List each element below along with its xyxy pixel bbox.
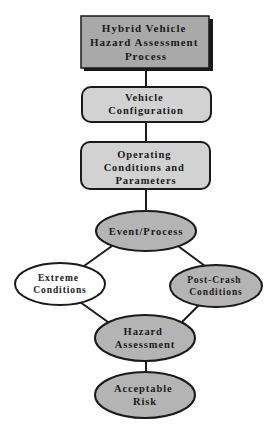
edge-event-to-postcrash <box>178 246 205 266</box>
edge-event-to-extreme <box>84 246 112 266</box>
extreme-conditions-line-2: Conditions <box>33 285 86 295</box>
post-crash-conditions-ellipse <box>170 265 262 307</box>
vehicle-configuration-line-1: Vehicle <box>125 92 164 103</box>
acceptable-risk-line-2: Risk <box>133 396 157 407</box>
post-crash-conditions-line-1: Post-Crash <box>187 275 241 285</box>
vehicle-configuration-line-2: Configuration <box>108 105 183 116</box>
edge-extreme-to-hazard <box>80 302 108 322</box>
hazard-assessment-node: Hazard Assessment <box>95 315 195 361</box>
hazard-assessment-line-1: Hazard <box>124 326 163 337</box>
operating-conditions-line-2: Conditions and <box>104 162 185 173</box>
hazard-assessment-flow-diagram: Hybrid Vehicle Hazard Assessment Process… <box>0 0 275 426</box>
operating-conditions-box: Operating Conditions and Parameters <box>81 142 210 189</box>
operating-conditions-line-3: Parameters <box>116 175 177 186</box>
post-crash-conditions-node: Post-Crash Conditions <box>170 265 262 307</box>
svg-text:Event/Process: Event/Process <box>109 226 184 237</box>
hazard-assessment-line-2: Assessment <box>115 339 175 350</box>
title-line-2: Hazard Assessment <box>90 36 198 48</box>
extreme-conditions-node: Extreme Conditions <box>15 263 105 305</box>
acceptable-risk-node: Acceptable Risk <box>95 372 195 418</box>
event-process-label: Event/Process <box>109 226 184 237</box>
operating-conditions-line-1: Operating <box>117 149 171 160</box>
title-box: Hybrid Vehicle Hazard Assessment Process <box>81 16 213 71</box>
title-line-3: Process <box>125 50 167 62</box>
post-crash-conditions-line-2: Conditions <box>189 287 242 297</box>
acceptable-risk-line-1: Acceptable <box>114 383 173 394</box>
acceptable-risk-ellipse <box>95 372 195 418</box>
event-process-node: Event/Process <box>96 211 196 251</box>
extreme-conditions-ellipse <box>15 263 105 305</box>
hazard-assessment-ellipse <box>95 315 195 361</box>
title-line-1: Hybrid Vehicle <box>102 22 187 34</box>
extreme-conditions-line-1: Extreme <box>38 273 79 283</box>
vehicle-configuration-box: Vehicle Configuration <box>82 87 211 122</box>
